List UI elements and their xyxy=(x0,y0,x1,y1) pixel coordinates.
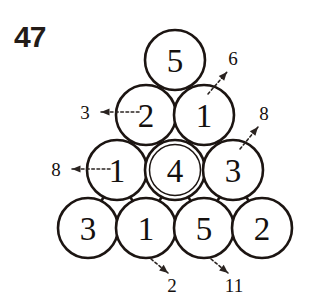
clue-value: 2 xyxy=(167,275,177,296)
cell-value: 3 xyxy=(225,153,242,189)
clue-value: 3 xyxy=(80,102,90,123)
puzzle-cell-r3c3[interactable]: 3 xyxy=(203,140,263,200)
puzzle-cell-r3c2[interactable]: 4 xyxy=(145,140,205,200)
puzzle-cell-r2c1[interactable]: 2 xyxy=(116,85,176,145)
cell-value: 3 xyxy=(80,211,97,247)
puzzle-cell-r4c4[interactable]: 2 xyxy=(232,198,292,258)
cell-value: 1 xyxy=(109,153,126,189)
cell-value: 1 xyxy=(138,211,155,247)
circle-layer: 5211433152 xyxy=(58,30,292,258)
cell-value: 5 xyxy=(167,43,184,79)
puzzle-stage: 47 5211433152 3868211 xyxy=(0,0,312,306)
cell-value: 4 xyxy=(167,153,184,189)
puzzle-diagram: 5211433152 3868211 xyxy=(0,0,312,306)
puzzle-cell-r3c1[interactable]: 1 xyxy=(87,140,147,200)
puzzle-cell-r4c1[interactable]: 3 xyxy=(58,198,118,258)
clue-value: 8 xyxy=(259,103,269,124)
puzzle-cell-r4c2[interactable]: 1 xyxy=(116,198,176,258)
clue-bottom-left: 2 xyxy=(151,259,177,296)
cell-value: 2 xyxy=(138,98,155,134)
clue-bottom-right: 11 xyxy=(211,259,243,296)
clue-value: 11 xyxy=(225,275,243,296)
cell-value: 1 xyxy=(196,98,213,134)
puzzle-cell-r1c1[interactable]: 5 xyxy=(145,30,205,90)
puzzle-cell-r2c2[interactable]: 1 xyxy=(174,85,234,145)
clue-value: 8 xyxy=(51,159,61,180)
cell-value: 5 xyxy=(196,211,213,247)
cell-value: 2 xyxy=(254,211,271,247)
puzzle-cell-r4c3[interactable]: 5 xyxy=(174,198,234,258)
clue-arrow-head xyxy=(101,108,110,115)
clue-arrow-head xyxy=(72,165,81,172)
clue-value: 6 xyxy=(228,48,238,69)
